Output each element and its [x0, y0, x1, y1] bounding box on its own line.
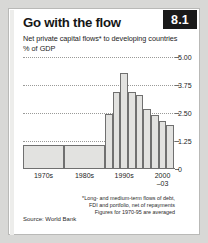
y-axis-tick-label: 2.50: [178, 110, 192, 117]
chart-units-label: % of GDP: [23, 44, 55, 53]
bar: [128, 92, 136, 169]
chart-subtitle: Net private capital flows* to developing…: [23, 34, 177, 43]
bar: [120, 73, 128, 169]
figure-number-label: 8.1: [171, 13, 189, 27]
chart-title: Go with the flow: [23, 15, 121, 30]
bar: [113, 92, 121, 169]
figure-number-badge: 8.1: [163, 10, 197, 29]
bar: [143, 109, 151, 169]
bar: [159, 121, 167, 169]
footnote-line: FDI and portfolio, net of repayments: [89, 202, 175, 208]
y-axis-tick-label: 3.75: [178, 82, 192, 89]
bar: [151, 115, 159, 169]
x-axis-group-label: 2000–03: [141, 172, 185, 188]
footnote-line: *Long- and medium-term flows of debt,: [82, 195, 175, 201]
gridline: [23, 85, 175, 86]
y-axis-tick-label: 1.25: [178, 138, 192, 145]
bar: [105, 114, 113, 169]
gridline: [23, 57, 175, 58]
y-axis-tick-label: 5.00: [178, 54, 192, 61]
chart-canvas: 01.252.503.755.00: [23, 57, 175, 169]
bar: [64, 145, 105, 169]
footnote-line: Figures for 1970-95 are averaged: [95, 209, 175, 215]
bar: [166, 125, 174, 169]
left-accent-rule: [10, 10, 14, 235]
source-label: Source: World Bank: [23, 216, 76, 222]
x-axis-group-label: 1970s: [22, 172, 66, 180]
bar: [23, 145, 64, 169]
gridline: [23, 113, 175, 114]
bar: [136, 95, 144, 169]
figure-card: 8.1 Go with the flow Net private capital…: [8, 8, 200, 235]
x-axis-group-label: 1980s: [63, 172, 107, 180]
chart-plot-area: 01.252.503.755.00: [23, 57, 175, 169]
